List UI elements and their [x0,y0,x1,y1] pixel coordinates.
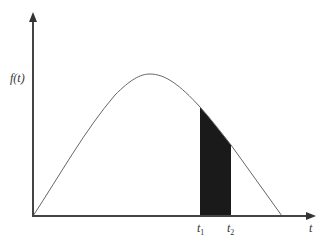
x-axis-arrow-icon [306,212,316,220]
density-chart: f(t) t1 t2 t [0,0,326,248]
x-axis-label: t [309,221,313,235]
y-axis-label: f(t) [10,71,25,85]
y-axis-arrow-icon [29,12,37,22]
t2-label: t2 [227,221,234,237]
density-curve [33,74,282,216]
shaded-area [200,107,231,216]
t1-label: t1 [197,221,204,237]
